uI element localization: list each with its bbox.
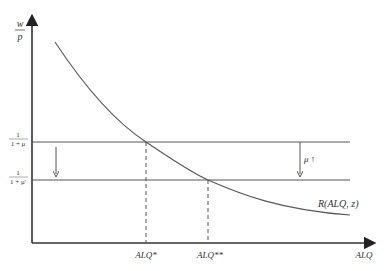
upper-price-line: 1 1 + μ [9,131,350,148]
diagram-canvas: w p ALQ 1 1 + μ 1 1 + μ' μ ↑ R(ALQ, z) A… [0,0,386,271]
equilibrium-2-label: ALQ** [196,250,224,260]
lower-label-numerator: 1 [16,169,20,177]
upper-label-numerator: 1 [16,131,20,139]
y-label-denominator: p [17,31,23,42]
lower-label-denominator: 1 + μ' [10,178,26,186]
x-axis-label: ALQ [354,250,373,260]
y-axis-label: w p [15,18,25,42]
shift-annotation: μ ↑ [303,154,315,164]
equilibrium-1-label: ALQ* [134,250,157,260]
curve-label: R(ALQ, z) [317,198,359,210]
lower-price-line: 1 1 + μ' [9,169,350,186]
r-curve [55,42,350,215]
upper-label-denominator: 1 + μ [11,140,26,148]
y-label-numerator: w [17,18,24,29]
